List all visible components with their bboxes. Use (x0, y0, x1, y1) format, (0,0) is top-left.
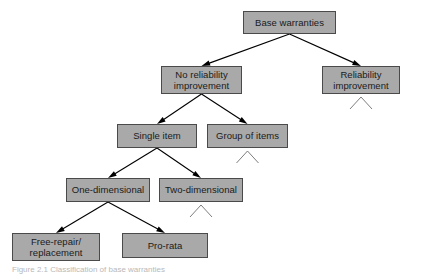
figure-canvas: Base warrantiesNo reliability improvemen… (0, 0, 421, 274)
edge-single-to-twodim-arrowhead (192, 171, 201, 178)
edge-base-to-reliability-line (290, 34, 355, 63)
edge-noreliability-to-single-arrowhead (157, 117, 166, 124)
node-label-reliability: Reliability improvement (331, 69, 390, 92)
edge-onedim-to-freerepair (56, 202, 108, 233)
edge-single-to-onedim-line (115, 148, 157, 174)
node-group-of-items[interactable]: Group of items (207, 124, 288, 148)
edge-noreliability-to-group-line (202, 94, 242, 120)
edge-onedim-to-prorata-line (108, 202, 158, 229)
edge-onedim-to-freerepair-line (63, 202, 108, 229)
continuation-caret-reliability (350, 97, 372, 109)
caret-right-group-of-items (248, 151, 259, 163)
node-label-one-dimensional: One-dimensional (70, 184, 147, 196)
node-single-item[interactable]: Single item (117, 124, 197, 148)
node-reliability[interactable]: Reliability improvement (322, 66, 400, 94)
node-no-reliability[interactable]: No reliability improvement (161, 66, 242, 94)
caret-left-group-of-items (237, 151, 248, 163)
node-label-group-of-items: Group of items (214, 130, 281, 142)
node-two-dimensional[interactable]: Two-dimensional (159, 178, 243, 202)
caret-left-reliability (350, 97, 361, 109)
edge-onedim-to-freerepair-arrowhead (56, 226, 65, 233)
node-label-free-repair: Free-repair/ replacement (28, 236, 85, 259)
continuation-caret-group-of-items (237, 151, 259, 163)
edge-noreliability-to-group-arrowhead (239, 117, 248, 124)
edge-single-to-onedim (108, 148, 157, 178)
node-label-single-item: Single item (131, 130, 183, 142)
node-pro-rata[interactable]: Pro-rata (122, 233, 208, 258)
caret-right-two-dimensional (201, 205, 212, 217)
caret-right-reliability (361, 97, 372, 109)
node-label-no-reliability: No reliability improvement (172, 69, 231, 92)
edge-single-to-twodim (157, 148, 201, 178)
edge-base-to-no-reliability (202, 34, 290, 66)
node-base-warranties[interactable]: Base warranties (243, 11, 336, 34)
caret-left-two-dimensional (190, 205, 201, 217)
node-free-repair[interactable]: Free-repair/ replacement (12, 233, 100, 261)
continuation-caret-two-dimensional (190, 205, 212, 217)
edge-single-to-onedim-arrowhead (108, 171, 117, 178)
figure-caption: Figure 2.1 Classification of base warran… (12, 265, 342, 274)
edge-onedim-to-prorata (108, 202, 165, 233)
edge-noreliability-to-single-line (163, 94, 201, 120)
node-label-base-warranties: Base warranties (253, 17, 326, 29)
node-label-pro-rata: Pro-rata (146, 240, 185, 252)
edge-single-to-twodim-line (157, 148, 195, 174)
edge-noreliability-to-group (202, 94, 248, 124)
edge-base-to-reliability (290, 34, 362, 66)
edge-noreliability-to-single (157, 94, 202, 124)
node-one-dimensional[interactable]: One-dimensional (66, 178, 150, 202)
edge-base-to-no-reliability-line (209, 34, 290, 63)
node-label-two-dimensional: Two-dimensional (163, 184, 239, 196)
